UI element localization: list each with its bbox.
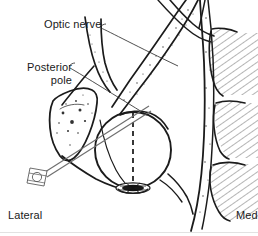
muscle-belly-superior xyxy=(200,20,258,105)
label-medial-orientation: Med xyxy=(236,209,258,222)
optic-nerve-texture xyxy=(123,9,193,100)
orbital-floor-curve xyxy=(62,120,133,191)
anatomical-figure: Optic nerve Posteriorpole Lateral Med xyxy=(0,0,258,236)
label-posterior-pole-line1: Posterior xyxy=(27,61,72,73)
label-lateral-orientation: Lateral xyxy=(8,209,42,222)
label-posterior-pole-line2: pole xyxy=(51,74,72,86)
label-posterior-pole: Posteriorpole xyxy=(10,61,72,86)
medial-rectus-muscles xyxy=(200,20,258,228)
needle-hub xyxy=(27,168,47,186)
orbit-section-drawing xyxy=(0,0,258,236)
globe xyxy=(95,111,193,214)
leader-lines xyxy=(69,24,178,115)
label-optic-nerve: Optic nerve xyxy=(44,18,101,31)
